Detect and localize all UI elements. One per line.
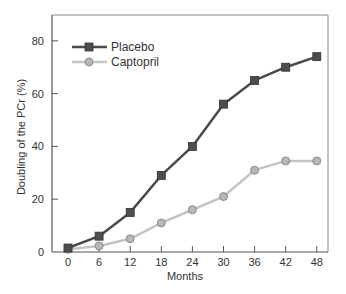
series-line bbox=[68, 161, 317, 249]
legend-item-placebo: Placebo bbox=[72, 40, 155, 54]
legend: Placebo Captopril bbox=[72, 40, 159, 69]
circle-marker-icon bbox=[313, 157, 321, 165]
square-marker-icon bbox=[85, 43, 93, 51]
y-tick-label: 0 bbox=[38, 246, 44, 258]
square-marker-icon bbox=[313, 53, 321, 61]
x-tick-label: 36 bbox=[248, 256, 260, 268]
y-ticks: 020406080 bbox=[32, 35, 58, 258]
x-tick-label: 30 bbox=[217, 256, 229, 268]
x-tick-label: 6 bbox=[96, 256, 102, 268]
x-tick-label: 42 bbox=[280, 256, 292, 268]
square-marker-icon bbox=[157, 171, 165, 179]
legend-item-captopril: Captopril bbox=[72, 55, 159, 69]
circle-marker-icon bbox=[85, 58, 93, 66]
series-placebo bbox=[64, 53, 321, 252]
legend-label-captopril: Captopril bbox=[111, 55, 159, 69]
x-tick-label: 12 bbox=[124, 256, 136, 268]
circle-marker-icon bbox=[126, 235, 134, 243]
square-marker-icon bbox=[64, 244, 72, 252]
series-layer bbox=[64, 53, 321, 254]
x-tick-label: 0 bbox=[65, 256, 71, 268]
circle-marker-icon bbox=[220, 193, 228, 201]
y-tick-label: 40 bbox=[32, 140, 44, 152]
x-tick-label: 48 bbox=[311, 256, 323, 268]
circle-marker-icon bbox=[95, 242, 103, 250]
circle-marker-icon bbox=[251, 166, 259, 174]
legend-label-placebo: Placebo bbox=[111, 40, 155, 54]
square-marker-icon bbox=[126, 208, 134, 216]
line-chart: 020406080 0612182430364248 Doubling of t… bbox=[0, 0, 346, 294]
y-tick-label: 20 bbox=[32, 193, 44, 205]
y-axis-title: Doubling of the PCr (%) bbox=[15, 79, 27, 195]
y-tick-label: 80 bbox=[32, 35, 44, 47]
x-ticks: 0612182430364248 bbox=[65, 246, 323, 268]
x-axis-title: Months bbox=[167, 270, 204, 282]
circle-marker-icon bbox=[188, 206, 196, 214]
square-marker-icon bbox=[220, 100, 228, 108]
square-marker-icon bbox=[282, 63, 290, 71]
plot-frame bbox=[52, 15, 328, 252]
y-tick-label: 60 bbox=[32, 88, 44, 100]
square-marker-icon bbox=[95, 232, 103, 240]
series-line bbox=[68, 57, 317, 248]
circle-marker-icon bbox=[157, 219, 165, 227]
square-marker-icon bbox=[251, 76, 259, 84]
x-tick-label: 24 bbox=[186, 256, 198, 268]
circle-marker-icon bbox=[282, 157, 290, 165]
square-marker-icon bbox=[188, 142, 196, 150]
x-tick-label: 18 bbox=[155, 256, 167, 268]
